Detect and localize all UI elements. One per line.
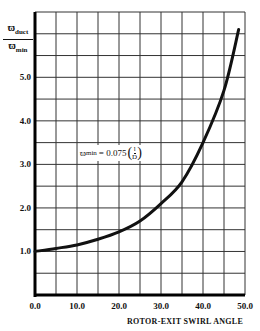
- x-tick-label: 10.0: [69, 301, 85, 311]
- x-tick-label: 40.0: [195, 301, 211, 311]
- data-curve: [35, 29, 239, 251]
- chart-plot: 0.010.020.030.040.050.0 1.02.03.04.05.0: [0, 0, 260, 331]
- x-axis-title: ROTOR-EXIT SWIRL ANGLE: [127, 317, 243, 326]
- ylabel-numerator-subscript: duct: [15, 28, 28, 36]
- formula-annotation: ϖmin = 0.075 ( l D ): [79, 145, 143, 161]
- y-tick-labels: 1.02.03.04.05.0: [20, 72, 32, 256]
- y-axis-label: ϖduct ϖmin: [3, 22, 33, 56]
- y-tick-label: 2.0: [20, 203, 32, 213]
- x-tick-label: 50.0: [237, 301, 253, 311]
- ylabel-numerator-symbol: ϖ: [8, 22, 15, 33]
- x-tick-label: 0.0: [29, 301, 41, 311]
- y-tick-label: 3.0: [20, 159, 32, 169]
- x-tick-label: 30.0: [153, 301, 169, 311]
- ylabel-denominator-subscript: min: [16, 46, 28, 54]
- y-tick-label: 1.0: [20, 246, 32, 256]
- x-tick-label: 20.0: [111, 301, 127, 311]
- y-tick-label: 5.0: [20, 72, 32, 82]
- y-tick-label: 4.0: [20, 116, 32, 126]
- formula-coefficient: = 0.075: [99, 148, 127, 158]
- ylabel-denominator-symbol: ϖ: [9, 40, 16, 51]
- x-tick-labels: 0.010.020.030.040.050.0: [29, 301, 253, 311]
- formula-subscript: min: [86, 149, 97, 157]
